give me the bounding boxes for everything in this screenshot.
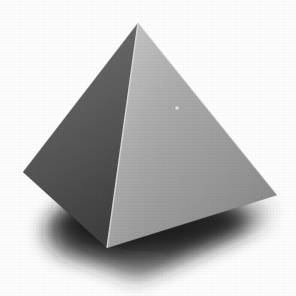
pyramid-render bbox=[0, 0, 296, 296]
specular-speck-icon bbox=[175, 106, 178, 109]
image-canvas: Grayscale rendered pyramid pyramid squar… bbox=[0, 0, 296, 296]
